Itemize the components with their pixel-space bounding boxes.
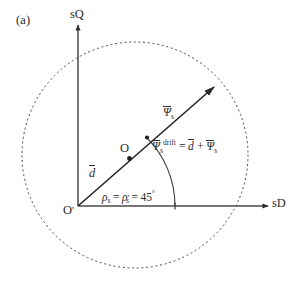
origin-prime: ' <box>72 204 74 216</box>
term-psi-subscript: s <box>214 146 217 155</box>
psi-drift-equation: Ψsdrift=d+Ψs <box>152 140 217 153</box>
psi-drift-symbol: Ψ <box>152 141 160 153</box>
dotted-reference-circle <box>22 42 248 268</box>
angle-degree-unit: ° <box>152 189 155 198</box>
angle-equals-2: = <box>129 191 141 203</box>
axis-label-sq: sQ <box>70 8 84 21</box>
vector-d-symbol: d <box>89 166 95 180</box>
psi-subscript: s <box>171 112 174 121</box>
axis-label-sd: sD <box>272 197 286 210</box>
angle-equals-1: = <box>110 191 122 203</box>
origin-letter: O <box>63 203 72 217</box>
panel-label: (a) <box>16 14 30 27</box>
arc-vector-intersection-dot <box>145 135 149 139</box>
vector-psi-s-label: Ψs <box>163 107 174 119</box>
term-d-symbol: d <box>188 140 194 153</box>
rho-subscript-2: s <box>126 196 129 205</box>
point-O-dot <box>127 156 132 161</box>
vector-d-label: d <box>89 166 95 180</box>
psi-drift-superscript: drift <box>163 138 176 147</box>
angle-label: ρs=ρ's=45° <box>102 190 155 203</box>
plus-sign: + <box>194 140 207 152</box>
equals-sign: = <box>176 140 188 152</box>
origin-label: O' <box>63 204 74 217</box>
point-O-label: O <box>120 142 129 155</box>
psi-symbol: Ψ <box>163 107 171 119</box>
figure-panel-a: (a) sQ sD O' O d Ψs Ψsdrift=d+Ψs ρs=ρ's=… <box>0 0 305 301</box>
angle-value: 45 <box>141 191 153 203</box>
rho-symbol-1: ρ <box>102 191 108 203</box>
